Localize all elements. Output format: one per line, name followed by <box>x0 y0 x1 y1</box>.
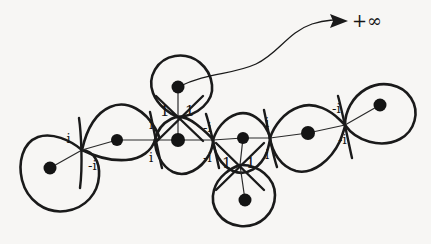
right-loop-strand <box>345 84 415 143</box>
infinity-label: +∞ <box>352 12 382 30</box>
crossing-label-c2-upper: i <box>149 118 153 131</box>
vertex-a <box>111 134 123 146</box>
vertex-top-loop <box>172 81 185 94</box>
crossing-label-c7-lower: -i <box>338 133 347 146</box>
vertex-b <box>171 133 185 147</box>
vertex-d <box>301 126 315 140</box>
vertex-c <box>237 132 249 144</box>
crossing-label-c3-right: 1 <box>185 104 195 119</box>
arrow-to-infinity <box>178 14 348 87</box>
vertex-left-loop <box>44 162 57 175</box>
figure-canvas: -i -i i i 1 1 -i -i 1 1 i i -i -i +∞ <box>0 0 431 244</box>
crossing-label-c7-upper: -i <box>332 102 341 115</box>
crossing-label-c4-upper: -i <box>203 121 212 134</box>
crossing-label-c3-left: 1 <box>160 104 170 119</box>
crossing-label-c2-lower: i <box>149 151 153 164</box>
transversal-x1 <box>79 118 82 188</box>
left-loop-strand <box>21 135 100 211</box>
crossing-label-c6-lower: i <box>265 148 269 161</box>
crossing-label-c5-left: 1 <box>222 156 232 171</box>
crossing-label-c6-upper: i <box>265 116 269 129</box>
crossing-label-c4-lower: -i <box>203 151 212 164</box>
infinity-arrow-curve <box>178 20 344 87</box>
vertex-bottom-loop <box>239 194 252 207</box>
crossing-label-c1-upper: -i <box>62 132 71 145</box>
vertex-right-loop <box>374 99 387 112</box>
infinity-arrow-head <box>330 14 348 28</box>
crossing-label-c1-lower: -i <box>88 159 97 172</box>
knot-strands-group <box>21 56 416 227</box>
knot-diagram-svg <box>0 0 431 244</box>
crossing-label-c5-right: 1 <box>246 156 256 171</box>
